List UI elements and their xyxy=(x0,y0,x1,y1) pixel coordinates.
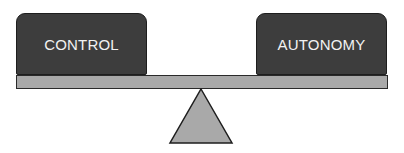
seesaw-plank xyxy=(16,75,388,89)
control-weight: CONTROL xyxy=(16,13,147,75)
control-label: CONTROL xyxy=(44,36,119,53)
fulcrum-triangle xyxy=(160,88,244,148)
autonomy-weight: AUTONOMY xyxy=(256,13,387,75)
autonomy-label: AUTONOMY xyxy=(278,36,366,53)
fulcrum-shape xyxy=(170,89,232,143)
